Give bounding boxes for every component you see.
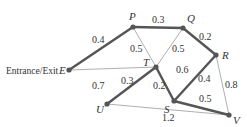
node-label-T: T bbox=[143, 56, 150, 68]
node-label-V: V bbox=[233, 114, 241, 126]
node-S bbox=[171, 98, 176, 103]
node-label-P: P bbox=[128, 10, 136, 22]
node-V bbox=[226, 112, 231, 117]
node-Q bbox=[180, 25, 185, 30]
node-T bbox=[153, 64, 158, 69]
weight-R-V: 0.8 bbox=[225, 79, 238, 90]
weight-T-U: 0.3 bbox=[121, 75, 134, 86]
node-label-R: R bbox=[221, 49, 229, 61]
weight-Q-R: 0.2 bbox=[199, 31, 212, 42]
weight-S-R: 0.4 bbox=[198, 73, 211, 84]
node-label-Q: Q bbox=[187, 12, 195, 24]
node-P bbox=[130, 24, 135, 29]
weight-S-R-upper: 0.6 bbox=[176, 64, 189, 75]
node-E bbox=[66, 67, 71, 72]
weight-P-Q: 0.3 bbox=[152, 14, 165, 25]
weight-E-T: 0.7 bbox=[92, 80, 105, 91]
node-R bbox=[213, 52, 218, 57]
edge-P-Q bbox=[133, 27, 183, 28]
weight-P-T: 0.5 bbox=[130, 43, 143, 54]
node-label-E: E bbox=[58, 64, 66, 76]
weight-T-S: 0.2 bbox=[153, 80, 166, 91]
weight-S-V: 0.5 bbox=[199, 93, 212, 104]
weight-U-V: 1.2 bbox=[162, 112, 175, 123]
entrance-exit-label: Entrance/Exit bbox=[6, 66, 59, 76]
weight-Q-T: 0.5 bbox=[172, 43, 185, 54]
network-diagram: P Q R E T S U V Entrance/Exit 0.4 0.3 0.… bbox=[0, 0, 247, 127]
node-U bbox=[104, 101, 109, 106]
node-label-U: U bbox=[96, 103, 105, 115]
weight-E-P: 0.4 bbox=[92, 34, 105, 45]
